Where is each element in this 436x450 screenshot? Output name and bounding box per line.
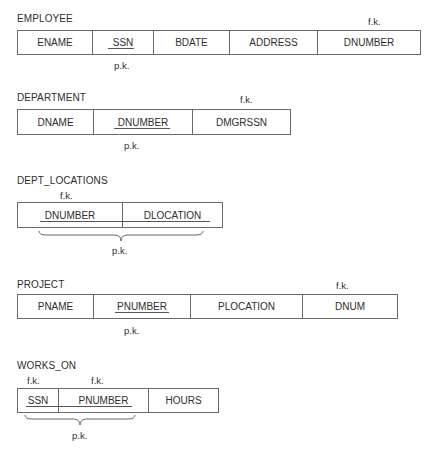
project-pk-underline — [115, 312, 169, 313]
employee-attr-bdate: BDATE — [154, 31, 230, 54]
department-title: DEPARTMENT — [17, 92, 86, 103]
works-on-attr-pnumber: PNUMBER — [59, 389, 149, 412]
department-attr-dnumber: DNUMBER — [94, 110, 193, 134]
department-pk-underline — [114, 128, 170, 129]
employee-attr-address: ADDRESS — [230, 31, 318, 54]
works-on-pk-label: p.k. — [72, 430, 87, 441]
department-relation: DNAME DNUMBER DMGRSSN — [17, 109, 291, 135]
department-attr-dname: DNAME — [18, 110, 94, 134]
department-pk-label: p.k. — [124, 140, 139, 151]
works-on-pk-brace — [24, 415, 136, 427]
project-attr-plocation: PLOCATION — [191, 295, 303, 318]
project-title: PROJECT — [17, 279, 64, 290]
works-on-relation: SSN PNUMBER HOURS — [17, 388, 219, 413]
employee-pk-label: p.k. — [114, 60, 129, 71]
dept-locations-pk-label: p.k. — [112, 245, 127, 256]
employee-attr-ename: ENAME — [18, 31, 93, 54]
project-attr-pnumber: PNUMBER — [94, 295, 191, 318]
dept-locations-pk-brace — [38, 231, 204, 243]
employee-title: EMPLOYEE — [17, 13, 73, 24]
project-attr-pname: PNAME — [18, 295, 94, 318]
employee-pk-underline — [108, 48, 134, 49]
employee-attr-dnumber: DNUMBER — [318, 31, 420, 54]
dept-locations-title: DEPT_LOCATIONS — [17, 175, 108, 186]
project-pk-label: p.k. — [124, 325, 139, 336]
dept-locations-relation: DNUMBER DLOCATION — [17, 202, 223, 228]
dept-locations-pk-underline — [40, 221, 210, 222]
project-fk-label: f.k. — [336, 280, 349, 291]
works-on-fk-label-pnumber: f.k. — [91, 375, 104, 386]
department-fk-label: f.k. — [240, 94, 253, 105]
department-attr-dmgrssn: DMGRSSN — [193, 110, 290, 134]
works-on-attr-hours: HOURS — [149, 389, 218, 412]
dept-locations-attr-dnumber: DNUMBER — [18, 203, 123, 227]
dept-locations-attr-dlocation: DLOCATION — [123, 203, 222, 227]
employee-attr-ssn: SSN — [93, 31, 154, 54]
employee-fk-label: f.k. — [368, 16, 381, 27]
project-attr-dnum: DNUM — [303, 295, 397, 318]
works-on-title: WORKS_ON — [17, 360, 76, 371]
works-on-attr-ssn: SSN — [18, 389, 59, 412]
project-relation: PNAME PNUMBER PLOCATION DNUM — [17, 294, 398, 319]
dept-locations-fk-label: f.k. — [60, 190, 73, 201]
works-on-pk-underline — [26, 406, 132, 407]
works-on-fk-label-ssn: f.k. — [27, 375, 40, 386]
employee-relation: ENAME SSN BDATE ADDRESS DNUMBER — [17, 30, 421, 55]
